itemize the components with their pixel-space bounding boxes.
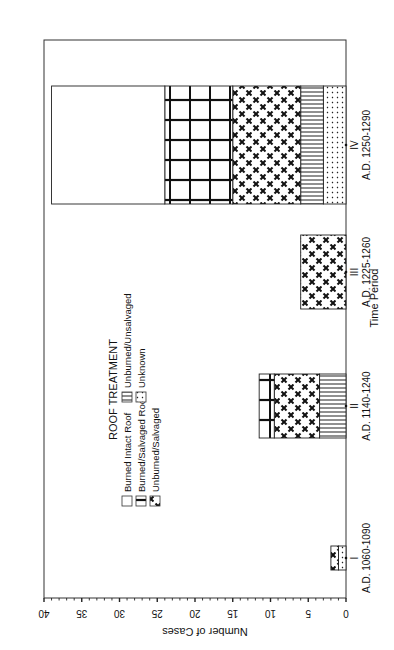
x-axis-categories: IA.D. 1060-1090IIA.D. 1140-1240IIIA.D. 1… — [345, 110, 372, 593]
x-category-numeral: II — [349, 403, 360, 409]
y-axis-label: Number of Cases — [162, 626, 248, 638]
x-category-numeral: I — [349, 557, 360, 560]
legend: ROOF TREATMENT Burned Intact Roof Burned… — [107, 293, 161, 506]
y-tick-label: 10 — [265, 608, 277, 619]
bar-segment — [331, 546, 339, 570]
x-tick — [345, 144, 348, 147]
bar-segment — [274, 374, 319, 438]
bar-group — [301, 235, 346, 309]
x-category-numeral: IV — [349, 140, 360, 150]
x-axis-label: Time Period — [368, 269, 380, 328]
bar-group — [331, 546, 346, 570]
x-category-date: A.D. 1060-1090 — [361, 523, 372, 593]
rotated-chart: 0510152025303540 IA.D. 1060-1090IIA.D. 1… — [0, 0, 394, 650]
bar-segment — [259, 374, 274, 438]
bar-segment — [320, 374, 346, 438]
x-category-date: A.D. 1140-1240 — [361, 371, 372, 441]
legend-swatch-burned-intact — [122, 496, 132, 506]
legend-title: ROOF TREATMENT — [107, 339, 119, 440]
y-tick-label: 15 — [227, 608, 239, 619]
bar-segment — [301, 235, 346, 309]
bar-segment — [233, 86, 301, 204]
x-category-numeral: III — [349, 268, 360, 276]
bars — [52, 86, 346, 570]
legend-label-unburned-salvaged: Unburned/Salvaged — [150, 408, 161, 492]
y-axis: 0510152025303540 — [38, 598, 349, 619]
legend-label-burned-salvaged: Burned/Salvaged Roof — [136, 396, 147, 492]
x-tick — [345, 405, 348, 408]
bar-segment — [301, 86, 324, 204]
bar-group — [52, 86, 346, 204]
x-category-date: A.D. 1250-1290 — [361, 110, 372, 180]
legend-swatch-burned-salvaged — [136, 496, 146, 506]
y-tick-label: 30 — [114, 608, 126, 619]
y-tick-label: 20 — [189, 608, 201, 619]
bar-segment — [165, 86, 233, 204]
y-tick-label: 40 — [38, 608, 50, 619]
y-tick-label: 0 — [343, 608, 349, 619]
legend-swatch-unknown — [136, 392, 146, 402]
y-tick-label: 35 — [76, 608, 88, 619]
bar-group — [259, 374, 346, 438]
legend-label-unknown: Unknown — [136, 348, 147, 388]
bar-segment — [323, 86, 346, 204]
x-tick — [345, 557, 348, 560]
y-tick-label: 5 — [305, 608, 311, 619]
legend-swatch-unburned-salvaged — [150, 496, 160, 506]
bar-segment — [52, 86, 165, 204]
y-tick-label: 25 — [151, 608, 163, 619]
legend-label-unburned-unsalvaged: Unburned/Unsalvaged — [122, 293, 133, 388]
stacked-bar-chart: 0510152025303540 IA.D. 1060-1090IIA.D. 1… — [0, 0, 394, 650]
legend-label-burned-intact: Burned Intact Roof — [122, 412, 133, 492]
x-tick — [345, 271, 348, 274]
legend-swatch-unburned-unsalvaged — [122, 392, 132, 402]
